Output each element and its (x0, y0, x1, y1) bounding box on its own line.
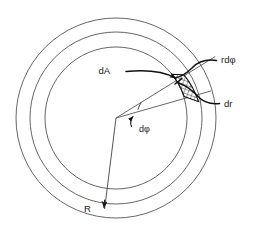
label-dr: dr (224, 98, 232, 109)
radius-R-line (105, 118, 116, 209)
dA-leader-line (126, 71, 176, 78)
label-dphi: dφ (139, 124, 150, 134)
figure-container: dA rdφ dr dφ R (0, 0, 253, 231)
label-R: R (84, 203, 91, 214)
wedge-radial-line-upper (116, 57, 215, 119)
radius-R-arrow (104, 200, 105, 208)
polar-area-element-diagram: dA rdφ dr dφ R (0, 0, 253, 231)
label-rdphi: rdφ (221, 54, 236, 65)
dphi-leader-arrow (131, 117, 133, 127)
label-dA: dA (98, 65, 110, 76)
